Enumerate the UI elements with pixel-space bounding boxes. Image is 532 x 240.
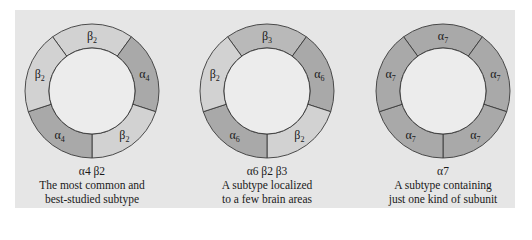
receptor-description: A subtype localized <box>182 178 352 192</box>
receptor-description: The most common and <box>7 178 177 192</box>
receptor-description: best-studied subtype <box>7 192 177 206</box>
caption-alpha6-beta2-beta3: α6 β2 β3 A subtype localized to a few br… <box>182 164 352 206</box>
receptor-name: α7 <box>358 164 528 178</box>
receptor-description: A subtype containing <box>358 178 528 192</box>
channel-pore <box>400 48 486 134</box>
receptor-name: α6 β2 β3 <box>182 164 352 178</box>
receptor-ring: β2α4β2α4β2 <box>25 24 159 158</box>
receptor-ring: β3α6β2α6β2 <box>200 24 334 158</box>
receptor-description: just one kind of subunit <box>358 192 528 206</box>
receptor-name: α4 β2 <box>7 164 177 178</box>
channel-pore <box>224 48 310 134</box>
receptor-ring: α7α7α7α7α7 <box>376 24 510 158</box>
channel-pore <box>49 48 135 134</box>
caption-alpha4-beta2: α4 β2 The most common and best-studied s… <box>7 164 177 206</box>
receptor-description: to a few brain areas <box>182 192 352 206</box>
caption-alpha7: α7 A subtype containing just one kind of… <box>358 164 528 206</box>
